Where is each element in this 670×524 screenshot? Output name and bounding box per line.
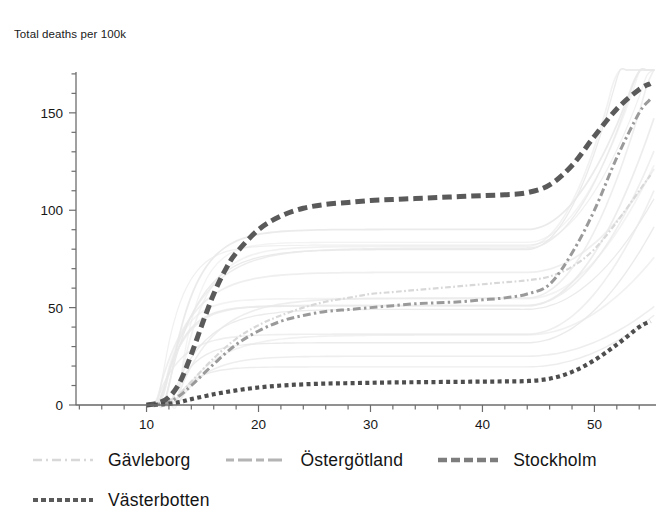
background-series-line bbox=[76, 152, 654, 406]
legend-item-stockholm[interactable]: Stockholm bbox=[437, 450, 597, 471]
plot-area: 1020304050050100150 bbox=[0, 0, 670, 440]
legend-item-ostergotland[interactable]: Östergötland bbox=[225, 450, 404, 471]
legend: Gävleborg Östergötland Stockholm bbox=[0, 440, 670, 520]
legend-item-vasterbotten[interactable]: Västerbotten bbox=[32, 490, 210, 511]
y-axis-tick-label: 150 bbox=[40, 106, 63, 121]
stockholm-line-swatch bbox=[437, 453, 499, 467]
legend-label-gavleborg: Gävleborg bbox=[108, 450, 191, 471]
ostergotland-line-swatch bbox=[225, 453, 287, 467]
vasterbotten-line-swatch bbox=[32, 493, 94, 507]
background-series-line bbox=[76, 70, 654, 405]
legend-row: Gävleborg Östergötland Stockholm bbox=[0, 440, 670, 480]
legend-row: Västerbotten bbox=[0, 480, 670, 520]
legend-label-stockholm: Stockholm bbox=[513, 450, 597, 471]
y-axis-tick-label: 100 bbox=[40, 203, 63, 218]
background-series-line bbox=[76, 69, 654, 409]
x-axis-tick-label: 50 bbox=[587, 417, 602, 432]
y-axis-tick-label: 50 bbox=[48, 301, 63, 316]
legend-label-vasterbotten: Västerbotten bbox=[108, 490, 210, 511]
background-series-group bbox=[76, 68, 654, 408]
gavleborg-line-swatch bbox=[32, 453, 94, 467]
x-axis-tick-label: 20 bbox=[251, 417, 266, 432]
x-axis-tick-label: 30 bbox=[363, 417, 378, 432]
x-axis-tick-label: 40 bbox=[475, 417, 490, 432]
axes-group: 1020304050050100150 bbox=[40, 72, 656, 432]
y-axis-tick-label: 0 bbox=[55, 398, 63, 413]
legend-item-gavleborg[interactable]: Gävleborg bbox=[32, 450, 191, 471]
chart-container: Total deaths per 100k 102030405005010015… bbox=[0, 0, 670, 524]
legend-label-ostergotland: Östergötland bbox=[301, 450, 404, 471]
x-axis-tick-label: 10 bbox=[139, 417, 154, 432]
background-series-line bbox=[76, 69, 654, 406]
